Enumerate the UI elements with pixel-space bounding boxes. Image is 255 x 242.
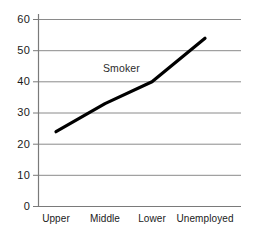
ytick-label-30: 30 [4,107,30,118]
ytick-label-60: 60 [4,14,30,25]
chart-container: 60 50 40 30 20 10 0 Upper Middle Lower U… [0,0,255,242]
xtick-label-middle: Middle [90,213,120,224]
xtick-label-lower: Lower [138,213,166,224]
ytick-label-0: 0 [4,201,30,212]
axis-ticks-group [33,20,38,207]
ytick-label-40: 40 [4,76,30,87]
xtick-label-unemployed: Unemployed [176,213,233,224]
ytick-label-10: 10 [4,170,30,181]
ytick-label-50: 50 [4,45,30,56]
ytick-label-20: 20 [4,139,30,150]
gridlines-group [38,20,241,176]
series-label-smoker: Smoker [103,63,140,74]
data-line-smoker [56,38,205,132]
xtick-label-upper: Upper [42,213,70,224]
chart-plot-area [0,0,255,242]
